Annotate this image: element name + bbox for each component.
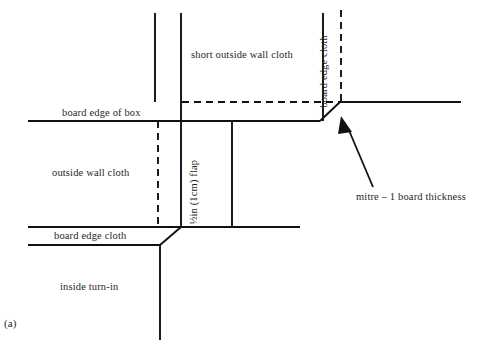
figure-letter: (a) — [4, 317, 17, 329]
label-board-edge-cloth-top: board edge cloth — [318, 35, 330, 107]
label-mitre-note: mitre – 1 board thickness — [356, 191, 466, 203]
label-board-edge-of-box: board edge of box — [62, 107, 141, 119]
label-flap-measurement: ½in (1cm) flap — [188, 160, 200, 225]
label-short-outside-wall-cloth: short outside wall cloth — [191, 49, 293, 61]
mitre-arrow-head — [338, 116, 352, 134]
label-outside-wall-cloth: outside wall cloth — [52, 167, 129, 179]
label-inside-turn-in: inside turn-in — [60, 281, 118, 293]
figure-container: short outside wall cloth board edge of b… — [0, 0, 478, 351]
mitre-arrow-shaft — [348, 128, 373, 187]
label-board-edge-cloth-bottom: board edge cloth — [54, 230, 126, 242]
line-mitre-diagonal-lower — [160, 227, 181, 245]
